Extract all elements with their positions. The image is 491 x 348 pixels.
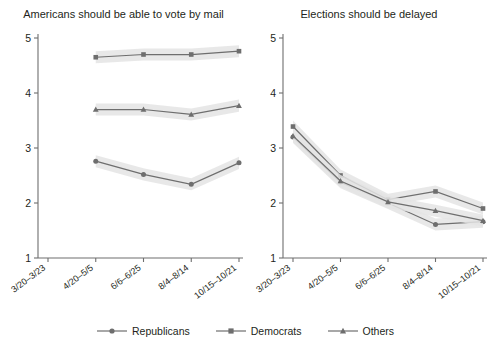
svg-text:5: 5 <box>270 32 276 44</box>
svg-text:3: 3 <box>270 142 276 154</box>
svg-text:5: 5 <box>25 32 31 44</box>
svg-text:2: 2 <box>270 197 276 209</box>
svg-text:4: 4 <box>270 87 276 99</box>
legend-marker-square-icon <box>216 325 246 337</box>
legend-marker-circle-icon <box>97 325 127 337</box>
svg-text:4/20–5/5: 4/20–5/5 <box>61 263 95 292</box>
legend-label-democrats: Democrats <box>251 325 302 337</box>
plot-area-right: 123453/20–3/234/20–5/56/6–6/258/4–8/1410… <box>247 0 491 312</box>
plot-svg-right: 123453/20–3/234/20–5/56/6–6/258/4–8/1410… <box>247 0 491 312</box>
svg-text:8/4–8/14: 8/4–8/14 <box>156 263 190 292</box>
legend-item-democrats: Democrats <box>216 325 302 337</box>
svg-text:8/4–8/14: 8/4–8/14 <box>401 263 435 292</box>
svg-text:3: 3 <box>25 142 31 154</box>
legend-label-others: Others <box>363 325 395 337</box>
legend-label-republicans: Republicans <box>132 325 190 337</box>
svg-text:3/20–3/23: 3/20–3/23 <box>9 263 47 295</box>
svg-text:2: 2 <box>25 197 31 209</box>
plot-svg-left: 123453/20–3/234/20–5/56/6–6/258/4–8/1410… <box>0 0 247 312</box>
svg-text:10/15–10/21: 10/15–10/21 <box>436 263 482 301</box>
chart-legend: Republicans Democrats Others <box>0 316 491 346</box>
svg-text:6/6–6/25: 6/6–6/25 <box>109 263 143 292</box>
chart-panel-elections-delayed: Elections should be delayed 123453/20–3/… <box>247 0 491 312</box>
svg-text:6/6–6/25: 6/6–6/25 <box>353 263 387 292</box>
plot-area-left: 123453/20–3/234/20–5/56/6–6/258/4–8/1410… <box>0 0 247 312</box>
svg-text:4: 4 <box>25 87 31 99</box>
svg-text:4/20–5/5: 4/20–5/5 <box>306 263 340 292</box>
svg-text:1: 1 <box>25 252 31 264</box>
legend-item-others: Others <box>328 325 395 337</box>
chart-figure: Americans should be able to vote by mail… <box>0 0 491 348</box>
chart-panel-vote-by-mail: Americans should be able to vote by mail… <box>0 0 247 312</box>
legend-item-republicans: Republicans <box>97 325 190 337</box>
svg-text:3/20–3/23: 3/20–3/23 <box>254 263 292 295</box>
svg-text:10/15–10/21: 10/15–10/21 <box>192 263 238 301</box>
svg-text:1: 1 <box>270 252 276 264</box>
legend-marker-triangle-icon <box>328 325 358 337</box>
